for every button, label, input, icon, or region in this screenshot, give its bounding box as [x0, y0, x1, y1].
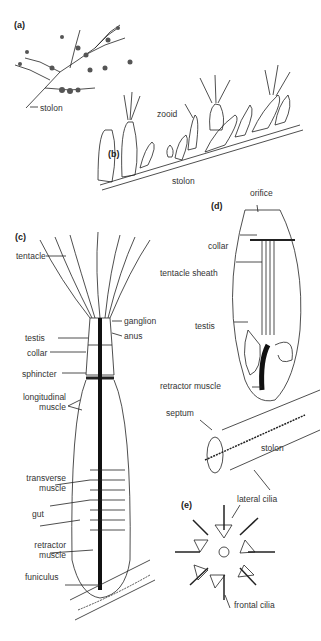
label-gut: gut [32, 509, 44, 519]
panel-c-zooid-drawing [40, 232, 155, 620]
panel-label-c: (c) [15, 232, 26, 242]
label-anus: anus [124, 331, 142, 341]
label-testis-c: testis [25, 333, 45, 343]
label-frontal-cilia: frontal cilia [234, 600, 275, 610]
label-stolon-d: stolon [261, 443, 284, 453]
label-transverse-muscle: transversemuscle [14, 473, 66, 493]
label-tentacle-sheath: tentacle sheath [160, 268, 218, 278]
panel-label-d: (d) [211, 201, 223, 211]
label-zooid: zooid [157, 109, 177, 119]
label-septum: septum [166, 408, 194, 418]
label-collar-c: collar [27, 348, 47, 358]
label-longitudinal-muscle: longitudinalmuscle [14, 392, 66, 412]
label-retractor-muscle-c: retractormuscle [14, 540, 66, 560]
label-tentacle: tentacle [16, 251, 46, 261]
panel-e-crosssection-drawing [175, 505, 275, 608]
panel-b-zooids-drawing [98, 65, 303, 190]
label-lateral-cilia: lateral cilia [237, 494, 277, 504]
label-testis-d: testis [195, 321, 215, 331]
label-stolon-b: stolon [172, 176, 195, 186]
label-ganglion: ganglion [124, 316, 156, 326]
label-funiculus: funiculus [25, 572, 59, 582]
label-sphincter: sphincter [22, 369, 57, 379]
panel-label-a: (a) [14, 20, 25, 30]
panel-label-b: (b) [108, 149, 120, 159]
panel-a-colony-drawing [15, 25, 133, 108]
label-orifice: orifice [250, 188, 273, 198]
panel-label-e: (e) [181, 500, 192, 510]
label-stolon-a: stolon [40, 103, 63, 113]
label-retractor-muscle-d: retractor muscle [160, 381, 221, 391]
label-collar-d: collar [208, 241, 228, 251]
